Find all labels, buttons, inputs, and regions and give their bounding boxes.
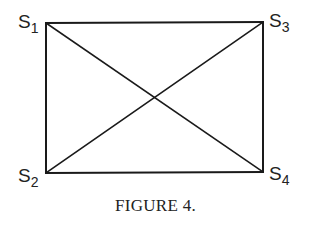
node-label-base: S	[18, 11, 31, 32]
node-label-subscript: 1	[31, 20, 39, 36]
edge-s2-s4	[46, 172, 263, 173]
node-label-s3: S3	[269, 11, 289, 34]
node-label-subscript: 4	[282, 172, 290, 188]
edge-s1-s3	[46, 22, 263, 23]
node-label-base: S	[269, 10, 282, 31]
node-label-subscript: 2	[31, 174, 39, 190]
node-label-s2: S2	[18, 166, 38, 189]
node-label-base: S	[18, 165, 31, 186]
node-label-s1: S1	[18, 12, 38, 35]
node-label-subscript: 3	[282, 19, 290, 35]
node-label-base: S	[269, 163, 282, 184]
figure-caption: FIGURE 4.	[0, 196, 311, 216]
node-label-s4: S4	[269, 164, 289, 187]
